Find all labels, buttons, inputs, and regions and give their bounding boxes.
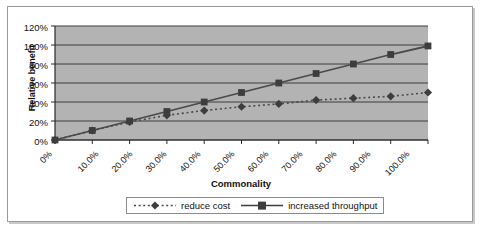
legend-label: increased throughput <box>288 200 377 211</box>
x-axis-title: Commonality <box>8 178 474 189</box>
diamond-marker-icon <box>133 200 177 211</box>
plot-area <box>8 7 474 223</box>
chart-frame: Relative benefit 120% 100% 80% 60% 40% 2… <box>7 6 473 222</box>
square-marker-icon <box>240 200 284 211</box>
legend-item-increased-throughput[interactable]: increased throughput <box>240 200 377 211</box>
legend-label: reduce cost <box>181 200 230 211</box>
chart-legend: reduce cost increased throughput <box>126 197 384 214</box>
legend-item-reduce-cost[interactable]: reduce cost <box>133 200 230 211</box>
